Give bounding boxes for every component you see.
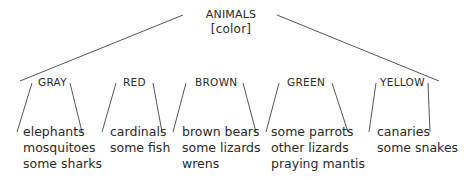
leaf-item: wrens xyxy=(182,156,261,172)
category-yellow: YELLOW xyxy=(380,76,425,88)
leaf-item: some lizards xyxy=(182,140,261,156)
leaf-item: cardinals xyxy=(110,124,170,140)
leaf-item: some sharks xyxy=(23,156,102,172)
leaf-item: some fish xyxy=(110,140,170,156)
root-sublabel: [color] xyxy=(186,22,276,36)
leaf-item: some snakes xyxy=(377,140,458,156)
category-brown: BROWN xyxy=(195,76,238,88)
root-label: ANIMALS xyxy=(186,8,276,21)
leaf-list-brown: brown bears some lizards wrens xyxy=(182,124,261,172)
category-gray: GRAY xyxy=(38,76,67,88)
leaf-list-green: some parrots other lizards praying manti… xyxy=(271,124,365,172)
leaf-list-yellow: canaries some snakes xyxy=(377,124,458,156)
leaf-item: brown bears xyxy=(182,124,261,140)
leaf-item: elephants xyxy=(23,124,102,140)
leaf-list-gray: elephants mosquitoes some sharks xyxy=(23,124,102,172)
animals-color-tree-diagram: ANIMALS [color] GRAY RED BROWN GREEN YEL… xyxy=(0,0,464,180)
leaf-item: canaries xyxy=(377,124,458,140)
leaf-list-red: cardinals some fish xyxy=(110,124,170,156)
leaf-item: other lizards xyxy=(271,140,365,156)
leaf-item: mosquitoes xyxy=(23,140,102,156)
category-red: RED xyxy=(123,76,146,88)
leaf-item: some parrots xyxy=(271,124,365,140)
leaf-item: praying mantis xyxy=(271,156,365,172)
root-node: ANIMALS [color] xyxy=(186,8,276,36)
category-green: GREEN xyxy=(287,76,325,88)
